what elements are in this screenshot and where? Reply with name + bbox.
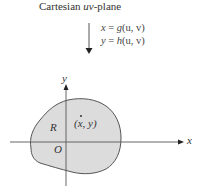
mapping-arrow-icon xyxy=(86,23,93,54)
eq-x-args: (u, v) xyxy=(122,22,145,33)
eq-y-equals: = xyxy=(106,35,117,46)
eq-x-equals: = xyxy=(106,22,117,33)
equation-x: x = g(u, v) xyxy=(101,22,145,33)
y-axis-label: y xyxy=(62,72,67,84)
x-axis-label: x xyxy=(187,134,192,146)
origin-label: O xyxy=(54,143,62,155)
eq-y-args: (u, v) xyxy=(122,35,145,46)
point-label: (x, y) xyxy=(74,117,97,129)
equation-y: y = h(u, v) xyxy=(101,35,145,46)
region-r xyxy=(30,99,121,174)
region-label: R xyxy=(50,121,57,133)
